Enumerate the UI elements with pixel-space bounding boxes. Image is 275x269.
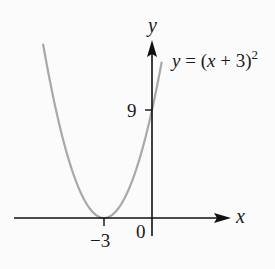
parabola-graph: y x 9 −3 0 y = (x + 3)2	[0, 0, 275, 269]
origin-label: 0	[136, 221, 146, 242]
equation-exponent: 2	[251, 47, 258, 62]
y-axis-label: y	[146, 14, 157, 37]
equation-label: y = (x + 3)2	[170, 47, 258, 72]
y-tick-label-9: 9	[127, 100, 137, 121]
x-axis-label: x	[235, 205, 245, 227]
parabola-curve	[43, 45, 161, 218]
x-tick-label-minus-3: −3	[90, 230, 110, 251]
